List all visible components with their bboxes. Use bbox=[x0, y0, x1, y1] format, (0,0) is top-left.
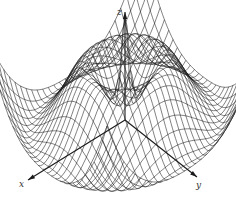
z-axis-label: z bbox=[116, 7, 122, 17]
mesh-line bbox=[48, 56, 168, 180]
mesh-line bbox=[13, 30, 169, 138]
surface-plot: z x y bbox=[0, 0, 236, 206]
mesh-line bbox=[64, 60, 220, 184]
y-axis-label: y bbox=[195, 180, 202, 190]
wireframe-mesh bbox=[0, 0, 236, 191]
mesh-line bbox=[82, 35, 202, 159]
mesh-line bbox=[0, 48, 113, 187]
x-axis-label: x bbox=[19, 179, 24, 189]
z-axis-arrowhead-icon bbox=[123, 12, 127, 19]
mesh-line bbox=[51, 46, 207, 176]
mesh-line bbox=[126, 0, 236, 116]
x-axis-arrowhead-icon bbox=[28, 174, 35, 180]
y-axis bbox=[125, 120, 197, 177]
mesh-line bbox=[115, 20, 235, 129]
